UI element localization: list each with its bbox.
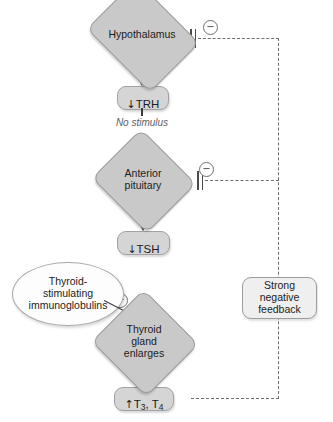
feedback-line-to-hypothalamus: [198, 38, 279, 39]
trh-label: ↓TRH: [127, 85, 160, 111]
feedback-line-vertical: [278, 38, 279, 399]
tsh-label: ↓TSH: [127, 230, 159, 256]
node-anterior-pituitary[interactable]: Anterior pituitary: [105, 146, 181, 214]
feedback-line-to-pituitary: [205, 180, 279, 181]
node-trh[interactable]: ↓TRH: [117, 86, 169, 110]
thyroid-gland-shape: [91, 289, 198, 396]
hormone-t4: T: [152, 398, 159, 410]
strong-negative-feedback-label: Strong negative feedback: [243, 280, 316, 315]
hormone-t3-subscript: 3: [141, 402, 146, 412]
node-thyroid-gland-enlarges[interactable]: Thyroid gland enlarges: [106, 306, 182, 378]
immunoglobulins-label: Thyroid- stimulating immunoglobulins: [29, 276, 108, 311]
hormone-t3: T: [134, 398, 141, 410]
hormone-t4-subscript: 4: [159, 402, 164, 412]
node-strong-negative-feedback[interactable]: Strong negative feedback: [242, 277, 317, 319]
tsh-down-arrow-icon: ↓: [127, 243, 136, 256]
node-tsh[interactable]: ↓TSH: [117, 231, 170, 255]
hormone-separator: ,: [145, 398, 151, 410]
minus-sign-hypothalamus-icon: −: [203, 20, 218, 35]
tsh-text: TSH: [137, 243, 160, 255]
trh-stub-line: [141, 108, 143, 116]
feedback-line-bottom: [191, 398, 279, 399]
no-stimulus-caption: No stimulus: [107, 117, 177, 128]
hormones-up-arrow-icon: ↑: [125, 398, 134, 411]
hypothalamus-shape: [86, 0, 199, 93]
trh-text: TRH: [136, 98, 160, 110]
node-hypothalamus[interactable]: Hypothalamus: [98, 1, 186, 69]
minus-sign-pituitary-icon: −: [199, 162, 214, 177]
trh-down-arrow-icon: ↓: [127, 98, 136, 111]
diagram-canvas: − − + Hypothalamus ↓TRH No stimulus Ante…: [0, 0, 333, 422]
anterior-pituitary-shape: [92, 129, 197, 234]
